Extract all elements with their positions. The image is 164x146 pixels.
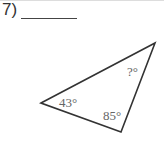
triangle-figure: 43° 85° ?° [0, 0, 164, 146]
angle-label-bottom: 85° [103, 108, 121, 123]
triangle [41, 43, 155, 132]
angle-label-top-right: ?° [127, 64, 138, 79]
angle-label-left: 43° [59, 95, 77, 110]
